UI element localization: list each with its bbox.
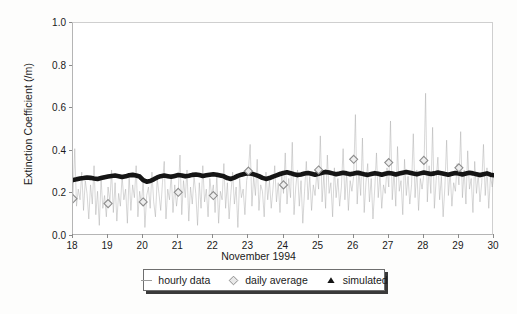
x-tick-mark [318, 234, 319, 238]
x-tick-mark [247, 234, 248, 238]
chart-legend: hourly data daily average simulated [143, 269, 385, 291]
x-tick-mark [212, 234, 213, 238]
x-tick-mark [107, 234, 108, 238]
legend-entry-daily-average: daily average [227, 274, 307, 286]
series-hourly-data [73, 93, 494, 227]
legend-label-hourly-data: hourly data [158, 274, 210, 286]
diamond-marker-icon [227, 275, 240, 286]
y-tick-label: 0.0 [36, 230, 66, 241]
y-axis-title: Extinction Coefficient (/m) [22, 24, 34, 224]
y-tick-label: 0.4 [36, 144, 66, 155]
hourly-line-icon [140, 279, 153, 281]
y-tick-label: 1.0 [36, 17, 66, 28]
triangle-marker-icon [325, 275, 338, 285]
x-tick-mark [353, 234, 354, 238]
x-tick-mark [72, 234, 73, 238]
legend-entry-simulated: simulated [325, 274, 388, 286]
legend-label-simulated: simulated [343, 274, 388, 286]
x-tick-mark [423, 234, 424, 238]
x-tick-mark [177, 234, 178, 238]
y-tick-label: 0.6 [36, 102, 66, 113]
legend-entry-hourly-data: hourly data [140, 274, 210, 286]
plot-area [72, 22, 493, 235]
x-tick-mark [283, 234, 284, 238]
y-tick-label: 0.8 [36, 59, 66, 70]
x-tick-mark [458, 234, 459, 238]
x-tick-mark [142, 234, 143, 238]
x-axis-title: November 1994 [0, 250, 517, 262]
plot-canvas [73, 23, 494, 236]
legend-label-daily-average: daily average [245, 274, 307, 286]
x-tick-mark [388, 234, 389, 238]
chart-figure: Extinction Coefficient (/m) 0.00.20.40.6… [0, 0, 517, 314]
x-tick-mark [493, 234, 494, 238]
y-tick-label: 0.2 [36, 187, 66, 198]
